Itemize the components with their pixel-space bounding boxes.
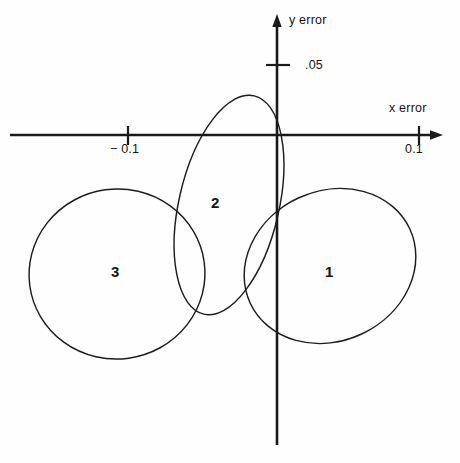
y-axis-arrowhead <box>272 14 281 27</box>
x-tick-label-negative-0-1: − 0.1 <box>110 142 139 156</box>
plot-canvas <box>0 0 460 463</box>
curve-label-1: 1 <box>325 263 334 280</box>
y-axis-title: y error <box>289 13 327 27</box>
curve-label-3: 3 <box>111 263 120 280</box>
x-axis-title: x error <box>389 101 427 115</box>
y-tick-label-0-05: .05 <box>305 58 323 72</box>
x-tick-label-positive-0-1: 0.1 <box>405 142 423 156</box>
axis-group <box>10 14 443 445</box>
curve-label-2: 2 <box>211 194 220 211</box>
curve-2-path <box>155 85 303 326</box>
error-plot-figure: y error x error .05 − 0.1 0.1 1 2 3 <box>0 0 460 463</box>
x-axis-arrowhead <box>430 130 443 140</box>
curve-group <box>18 85 441 372</box>
